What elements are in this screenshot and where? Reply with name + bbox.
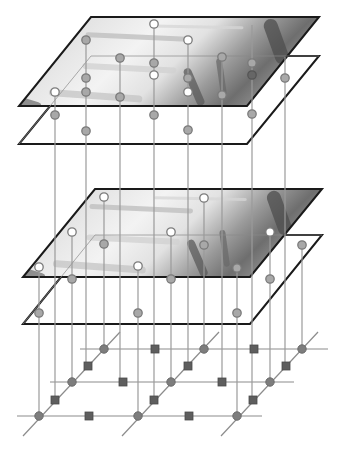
grid-circle-node — [233, 412, 241, 420]
node-white-circle — [134, 262, 142, 270]
top-image-plane — [19, 17, 319, 106]
grid-circle-node — [100, 345, 108, 353]
node-gray-circle — [116, 54, 124, 62]
node-white-circle — [167, 228, 175, 236]
grid-square-node — [250, 345, 258, 353]
node-white-circle — [184, 36, 192, 44]
node-gray-circle — [82, 127, 90, 135]
node-white-circle — [150, 71, 158, 79]
node-gray-circle — [298, 241, 306, 249]
node-gray-circle — [82, 74, 90, 82]
node-white-circle — [200, 194, 208, 202]
node-gray-circle — [218, 53, 226, 61]
grid-square-node — [184, 362, 192, 370]
node-gray-circle — [68, 275, 76, 283]
node-gray-circle — [266, 275, 274, 283]
node-gray-circle — [167, 275, 175, 283]
node-white-circle — [184, 88, 192, 96]
lattice-diagram — [0, 0, 345, 450]
grid-square-node — [84, 362, 92, 370]
node-gray-circle — [51, 111, 59, 119]
node-gray-circle — [233, 264, 241, 272]
node-gray-circle — [281, 74, 289, 82]
grid-circle-node — [167, 378, 175, 386]
grid-circle-node — [68, 378, 76, 386]
node-gray-circle — [233, 309, 241, 317]
grid-circle-node — [266, 378, 274, 386]
grid-square-node — [185, 412, 193, 420]
grid-square-node — [282, 362, 290, 370]
node-gray-circle — [184, 126, 192, 134]
node-gray-circle — [200, 241, 208, 249]
grid-circle-node — [200, 345, 208, 353]
node-gray-circle — [150, 59, 158, 67]
grid-square-node — [218, 378, 226, 386]
grid-circle-node — [35, 412, 43, 420]
node-gray-circle — [248, 59, 256, 67]
node-white-circle — [51, 88, 59, 96]
grid-square-node — [150, 396, 158, 404]
grid-square-node — [85, 412, 93, 420]
node-gray-circle — [116, 93, 124, 101]
node-white-circle — [100, 193, 108, 201]
grid-square-node — [151, 345, 159, 353]
node-gray-circle — [150, 111, 158, 119]
node-white-circle — [68, 228, 76, 236]
grid-circle-node — [298, 345, 306, 353]
node-white-circle — [35, 263, 43, 271]
node-gray-circle — [248, 110, 256, 118]
grid-circle-node — [134, 412, 142, 420]
node-gray-circle — [218, 91, 226, 99]
node-dark-circle — [248, 71, 256, 79]
node-gray-circle — [35, 309, 43, 317]
node-white-circle — [266, 228, 274, 236]
node-white-circle — [150, 20, 158, 28]
grid-square-node — [51, 396, 59, 404]
grid-square-node — [119, 378, 127, 386]
node-gray-circle — [82, 36, 90, 44]
node-gray-circle — [82, 88, 90, 96]
grid-square-node — [249, 396, 257, 404]
node-gray-circle — [184, 74, 192, 82]
node-gray-circle — [100, 240, 108, 248]
node-gray-circle — [134, 309, 142, 317]
